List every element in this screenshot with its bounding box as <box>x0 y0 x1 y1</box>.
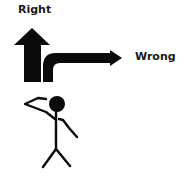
stick-figure-icon <box>25 96 77 167</box>
right-label: Right <box>18 4 51 15</box>
wrong-label: Wrong <box>135 51 176 62</box>
diagram-graphics <box>0 0 192 176</box>
left-leg-line <box>43 149 56 167</box>
right-turn-arrow-icon <box>43 50 122 82</box>
hanging-arm-line <box>59 119 77 137</box>
right-leg-line <box>56 149 70 166</box>
illustration: Right Wrong <box>0 0 192 176</box>
